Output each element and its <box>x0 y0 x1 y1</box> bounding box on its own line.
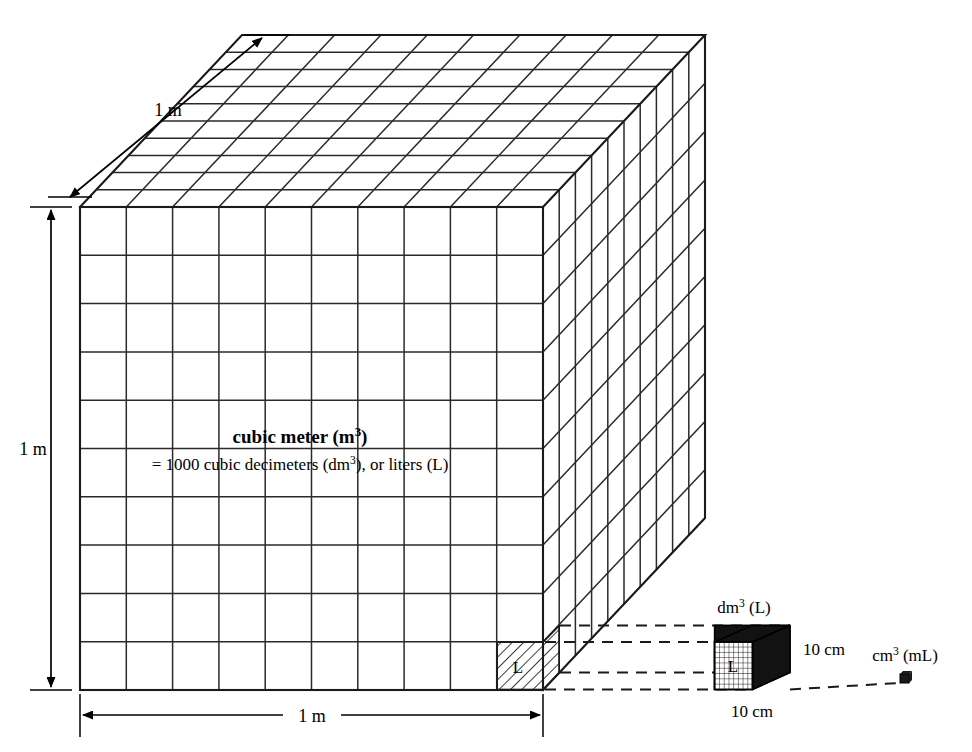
detail-cube-face-label: L <box>728 657 738 676</box>
cube-top-face-grid <box>96 35 689 207</box>
milliliter-cube <box>900 671 912 683</box>
dm3-unit: (L) <box>745 598 771 617</box>
title-base: cubic meter (m <box>233 426 355 448</box>
title-close: ) <box>361 426 367 448</box>
liter-cell-label: L <box>513 658 523 677</box>
subtitle: = 1000 cubic decimeters (dm3), or liters… <box>152 454 449 475</box>
detail-cube-width-label: 10 cm <box>731 702 773 721</box>
cm3-unit: (mL) <box>899 646 938 665</box>
depth-label: 1 m <box>154 100 182 120</box>
width-label: 1 m <box>298 706 326 726</box>
projection-line-ml <box>790 683 898 690</box>
diagram-canvas: L cubic meter (m3) = 1000 cubic decimete… <box>0 0 972 752</box>
detail-cube-unit-label: dm3 (L) <box>717 597 770 618</box>
cube-outline <box>80 35 705 690</box>
detail-cube: L <box>715 626 791 690</box>
milliliter-cube-glyph <box>900 674 909 683</box>
cube-front-face-grid <box>80 207 543 690</box>
main-cube <box>80 35 705 690</box>
cm3-base: cm <box>872 646 893 665</box>
subtitle-part-a: = 1000 cubic decimeters (dm <box>152 455 350 474</box>
width-dimension: 1 m <box>80 694 543 737</box>
detail-cube-height-label: 10 cm <box>803 640 845 659</box>
height-label: 1 m <box>19 439 47 459</box>
page-title: cubic meter (m3) <box>233 424 368 449</box>
cubic-meter-figure: L cubic meter (m3) = 1000 cubic decimete… <box>0 0 972 752</box>
dm3-base: dm <box>717 598 739 617</box>
height-dimension: 1 m <box>19 207 72 690</box>
subtitle-part-b: ), or liters (L) <box>356 455 449 474</box>
cube-right-face-grid <box>543 52 705 673</box>
milliliter-label: cm3 (mL) <box>872 645 938 666</box>
